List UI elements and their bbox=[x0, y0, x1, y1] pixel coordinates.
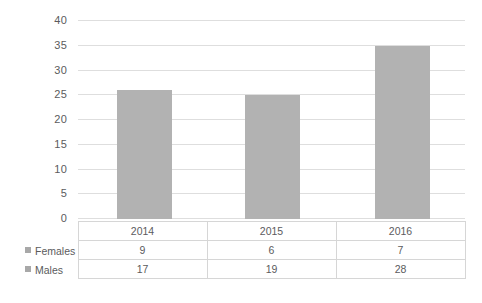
table-header-2014: 2014 bbox=[78, 222, 207, 241]
table-header-row: 2014 2015 2016 bbox=[22, 222, 465, 241]
y-axis-tick-20: 20 bbox=[54, 113, 67, 125]
data-table: 2014 2015 2016 Females 9 6 7 Males 17 19… bbox=[22, 221, 466, 279]
cell-females-2014: 9 bbox=[78, 241, 207, 260]
table-corner-cell bbox=[22, 222, 78, 241]
y-axis-tick-30: 30 bbox=[54, 64, 67, 76]
table-header-2015: 2015 bbox=[207, 222, 336, 241]
y-axis-tick-25: 25 bbox=[54, 88, 67, 100]
cell-males-2014: 17 bbox=[78, 260, 207, 279]
cell-males-2016: 28 bbox=[336, 260, 465, 279]
legend-item-females: Females bbox=[22, 241, 78, 260]
table-row-males: Males 17 19 28 bbox=[22, 260, 465, 279]
plot-area: 40 35 30 25 20 15 10 5 0 bbox=[78, 20, 465, 219]
y-axis-tick-5: 5 bbox=[61, 187, 67, 199]
gridline-40 bbox=[78, 20, 465, 21]
legend-item-males: Males bbox=[22, 260, 78, 279]
bar-2014 bbox=[117, 90, 172, 219]
legend-swatch-icon-females bbox=[25, 247, 31, 253]
y-axis-tick-10: 10 bbox=[54, 163, 67, 175]
y-axis-tick-40: 40 bbox=[54, 14, 67, 26]
legend-swatch-icon-males bbox=[25, 266, 31, 272]
table-header-2016: 2016 bbox=[336, 222, 465, 241]
y-axis-tick-35: 35 bbox=[54, 39, 67, 51]
bar-chart: 40 35 30 25 20 15 10 5 0 2014 2015 2016 bbox=[0, 0, 482, 303]
cell-females-2015: 6 bbox=[207, 241, 336, 260]
legend-label-females: Females bbox=[35, 245, 75, 257]
legend-label-males: Males bbox=[35, 264, 63, 276]
y-axis-tick-15: 15 bbox=[54, 138, 67, 150]
cell-females-2016: 7 bbox=[336, 241, 465, 260]
bar-2016 bbox=[375, 46, 430, 219]
cell-males-2015: 19 bbox=[207, 260, 336, 279]
bar-2015 bbox=[245, 95, 300, 219]
table-row-females: Females 9 6 7 bbox=[22, 241, 465, 260]
